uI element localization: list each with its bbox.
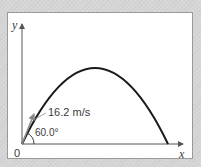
- projectile-diagram: [0, 0, 201, 167]
- y-axis-label: y: [12, 19, 17, 31]
- x-axis-label: x: [179, 148, 184, 160]
- origin-label: 0: [14, 148, 20, 159]
- velocity-arrow: [22, 114, 34, 144]
- speed-leader-line: [33, 113, 46, 120]
- angle-arc: [28, 134, 34, 144]
- speed-label: 16.2 m/s: [48, 107, 90, 118]
- angle-label: 60.0°: [35, 128, 58, 138]
